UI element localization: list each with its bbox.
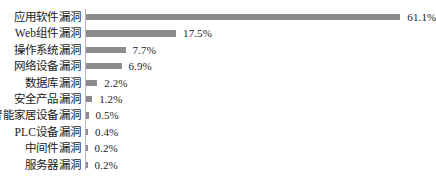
bar-category-label: Web组件漏洞 <box>0 25 85 41</box>
bar-value-label: 61.1% <box>407 9 436 25</box>
bar-row: 操作系统漏洞7.7% <box>0 42 436 58</box>
bar <box>86 80 97 86</box>
bar-value-label: 7.7% <box>133 42 156 58</box>
bar-category-label: PLC设备漏洞 <box>0 124 85 140</box>
bar-row: Web组件漏洞17.5% <box>0 25 436 41</box>
bar-rows-container: 应用软件漏洞61.1%Web组件漏洞17.5%操作系统漏洞7.7%网络设备漏洞6… <box>0 9 436 173</box>
bar-category-label: 服务器漏洞 <box>0 157 85 173</box>
bar <box>86 129 88 135</box>
bar-plot-area: 0.5% <box>86 107 436 123</box>
bar-category-label: 智能家居设备漏洞 <box>0 107 85 123</box>
bar-plot-area: 2.2% <box>86 75 436 91</box>
bar-plot-area: 0.2% <box>86 157 436 173</box>
bar-value-label: 6.9% <box>129 58 152 74</box>
bar-value-label: 0.2% <box>95 157 118 173</box>
bar-value-label: 0.4% <box>95 124 118 140</box>
bar <box>86 162 88 168</box>
bar <box>86 30 176 36</box>
bar-category-label: 网络设备漏洞 <box>0 58 85 74</box>
bar-plot-area: 7.7% <box>86 42 436 58</box>
bar-category-label: 数据库漏洞 <box>0 75 85 91</box>
bar-value-label: 1.2% <box>99 91 122 107</box>
bar-row: 服务器漏洞0.2% <box>0 157 436 173</box>
bar-row: PLC设备漏洞0.4% <box>0 124 436 140</box>
horizontal-bar-chart: 应用软件漏洞61.1%Web组件漏洞17.5%操作系统漏洞7.7%网络设备漏洞6… <box>0 0 436 186</box>
bar <box>86 14 400 20</box>
bar <box>86 112 89 118</box>
bar-row: 智能家居设备漏洞0.5% <box>0 107 436 123</box>
bar-row: 数据库漏洞2.2% <box>0 75 436 91</box>
bar-row: 网络设备漏洞6.9% <box>0 58 436 74</box>
bar-value-label: 0.5% <box>96 107 119 123</box>
bar-category-label: 安全产品漏洞 <box>0 91 85 107</box>
bar-plot-area: 61.1% <box>86 9 436 25</box>
bar-plot-area: 6.9% <box>86 58 436 74</box>
bar-value-label: 2.2% <box>104 75 127 91</box>
bar-plot-area: 0.2% <box>86 140 436 156</box>
bar-row: 中间件漏洞0.2% <box>0 140 436 156</box>
bar-category-label: 中间件漏洞 <box>0 140 85 156</box>
bar-row: 安全产品漏洞1.2% <box>0 91 436 107</box>
bar-category-label: 应用软件漏洞 <box>0 9 85 25</box>
bar-plot-area: 0.4% <box>86 124 436 140</box>
bar-value-label: 17.5% <box>183 25 212 41</box>
bar-plot-area: 1.2% <box>86 91 436 107</box>
bar <box>86 145 88 151</box>
bar <box>86 63 122 69</box>
bar-value-label: 0.2% <box>95 140 118 156</box>
bar <box>86 96 92 102</box>
bar-row: 应用软件漏洞61.1% <box>0 9 436 25</box>
bar-plot-area: 17.5% <box>86 25 436 41</box>
bar <box>86 47 126 53</box>
bar-category-label: 操作系统漏洞 <box>0 42 85 58</box>
